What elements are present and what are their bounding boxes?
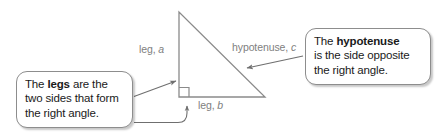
callout-hypotenuse-text: The hypotenuseis the side oppositethe ri… bbox=[306, 29, 430, 82]
variable-c: c bbox=[291, 41, 296, 53]
variable-a: a bbox=[158, 43, 164, 55]
callout-legs-text: The legs are thetwo sides that formthe r… bbox=[17, 72, 132, 125]
callout-legs: The legs are thetwo sides that formthe r… bbox=[16, 71, 133, 128]
leader-line-leg-b bbox=[134, 106, 187, 123]
leader-line-hypotenuse bbox=[247, 56, 303, 68]
leader-line-leg-a bbox=[134, 81, 176, 97]
right-angle-marker-icon bbox=[179, 88, 189, 98]
right-triangle-outline bbox=[179, 12, 265, 97]
callout-hypotenuse-keyword: hypotenuse bbox=[336, 35, 399, 47]
callout-hypotenuse: The hypotenuseis the side oppositethe ri… bbox=[305, 28, 431, 85]
label-leg-b: leg, b bbox=[198, 99, 223, 111]
variable-b: b bbox=[217, 99, 223, 111]
callout-legs-keyword: legs bbox=[47, 78, 69, 90]
diagram-canvas: leg, a leg, b hypotenuse, c The legs are… bbox=[0, 0, 435, 139]
label-hypotenuse-c: hypotenuse, c bbox=[232, 41, 296, 53]
label-leg-a: leg, a bbox=[139, 43, 164, 55]
